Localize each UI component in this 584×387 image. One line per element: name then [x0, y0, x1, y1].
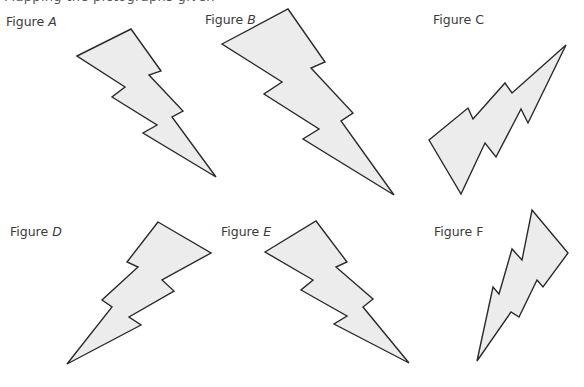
figures-canvas: [0, 0, 584, 387]
lightning-bolt-d-icon: [67, 222, 211, 364]
lightning-bolt-c-icon: [429, 45, 566, 194]
lightning-bolt-b-icon: [222, 9, 394, 195]
lightning-bolt-a-icon: [77, 29, 216, 177]
lightning-bolt-e-icon: [265, 221, 409, 363]
lightning-bolt-f-icon: [477, 210, 568, 361]
